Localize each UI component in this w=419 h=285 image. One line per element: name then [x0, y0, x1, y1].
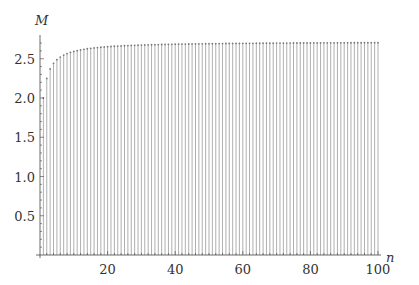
stem-marker: [205, 43, 207, 45]
stem-marker: [66, 53, 68, 55]
stem-marker: [262, 42, 264, 44]
stem-marker: [242, 42, 244, 44]
stem-marker: [93, 47, 95, 49]
stem-marker: [340, 42, 342, 44]
stem-marker: [181, 43, 183, 45]
stem-marker: [130, 45, 132, 47]
stem-marker: [73, 50, 75, 52]
stem-marker: [83, 48, 85, 50]
stem-marker: [313, 42, 315, 44]
y-axis-label: M: [34, 13, 49, 28]
stem-marker: [218, 43, 220, 45]
stem-marker: [127, 45, 129, 47]
stem-chart: 20406080100 0.51.01.52.02.5 M n: [0, 0, 419, 285]
data-stems: [42, 42, 378, 255]
stem-marker: [306, 42, 308, 44]
stem-marker: [211, 43, 213, 45]
stem-marker: [201, 43, 203, 45]
stem-marker: [333, 42, 335, 44]
x-tick-label: 40: [167, 262, 184, 277]
y-tick-label: 0.5: [14, 209, 35, 224]
stem-marker: [198, 43, 200, 45]
stem-marker: [113, 45, 115, 47]
stem-marker: [343, 42, 345, 44]
stem-marker: [215, 43, 217, 45]
stem-marker: [374, 42, 376, 44]
stem-marker: [161, 44, 163, 46]
stem-marker: [151, 44, 153, 46]
stem-marker: [134, 44, 136, 46]
stem-marker: [310, 42, 312, 44]
y-tick-label: 1.5: [14, 130, 35, 145]
x-axis-label: n: [386, 250, 394, 265]
stem-marker: [364, 42, 366, 44]
x-tick-label: 80: [302, 262, 319, 277]
stem-marker: [120, 45, 122, 47]
stem-marker: [370, 42, 372, 44]
stem-marker: [100, 46, 102, 48]
y-ticks: 0.51.01.52.02.5: [14, 43, 44, 247]
stem-marker: [225, 43, 227, 45]
stem-marker: [97, 47, 99, 49]
stem-marker: [316, 42, 318, 44]
stem-marker: [157, 44, 159, 46]
stem-marker: [76, 50, 78, 52]
stem-marker: [171, 43, 173, 45]
stem-marker: [184, 43, 186, 45]
stem-marker: [232, 43, 234, 45]
stem-marker: [222, 43, 224, 45]
stem-marker: [178, 43, 180, 45]
stem-marker: [70, 51, 72, 53]
stem-marker: [320, 42, 322, 44]
stem-marker: [63, 54, 65, 56]
stem-marker: [168, 43, 170, 45]
stem-marker: [53, 62, 55, 64]
stem-marker: [286, 42, 288, 44]
stem-marker: [255, 42, 257, 44]
stem-marker: [141, 44, 143, 46]
stem-marker: [103, 46, 105, 48]
stem-marker: [353, 42, 355, 44]
stem-marker: [266, 42, 268, 44]
stem-marker: [299, 42, 301, 44]
stem-marker: [144, 44, 146, 46]
stem-marker: [360, 42, 362, 44]
stem-marker: [195, 43, 197, 45]
stem-marker: [80, 49, 82, 51]
stem-marker: [191, 43, 193, 45]
stem-marker: [252, 42, 254, 44]
stem-marker: [49, 68, 51, 70]
stem-marker: [90, 47, 92, 49]
stem-marker: [188, 43, 190, 45]
stem-marker: [235, 43, 237, 45]
stem-marker: [337, 42, 339, 44]
stem-marker: [293, 42, 295, 44]
stem-marker: [124, 45, 126, 47]
stem-marker: [279, 42, 281, 44]
stem-marker: [326, 42, 328, 44]
stem-marker: [282, 42, 284, 44]
stem-marker: [272, 42, 274, 44]
stem-marker: [164, 44, 166, 46]
stem-marker: [46, 77, 48, 79]
stem-marker: [303, 42, 305, 44]
stem-marker: [56, 59, 58, 61]
stem-marker: [377, 42, 379, 44]
stem-marker: [59, 56, 61, 58]
stem-marker: [350, 42, 352, 44]
y-tick-label: 1.0: [14, 170, 35, 185]
stem-marker: [276, 42, 278, 44]
stem-marker: [137, 44, 139, 46]
stem-marker: [367, 42, 369, 44]
stem-marker: [110, 46, 112, 48]
stem-marker: [154, 44, 156, 46]
stem-marker: [330, 42, 332, 44]
stem-marker: [86, 48, 88, 50]
x-tick-label: 20: [99, 262, 116, 277]
stem-marker: [269, 42, 271, 44]
stem-marker: [239, 42, 241, 44]
y-tick-label: 2.0: [14, 91, 35, 106]
stem-marker: [357, 42, 359, 44]
stem-marker: [259, 42, 261, 44]
stem-marker: [245, 42, 247, 44]
